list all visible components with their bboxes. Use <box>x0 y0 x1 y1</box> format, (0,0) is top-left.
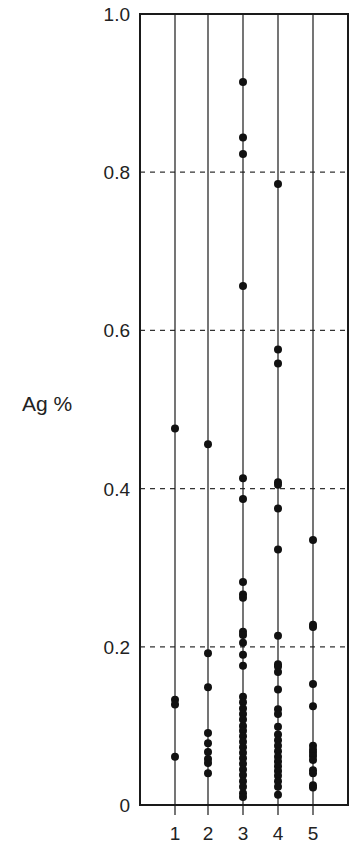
data-point <box>204 769 212 777</box>
data-point <box>204 739 212 747</box>
data-point <box>204 729 212 737</box>
data-point <box>309 680 317 688</box>
y-tick-label: 0 <box>119 795 130 816</box>
scatter-chart: 00.20.40.60.81.0 12345 Ag % <box>0 0 353 858</box>
x-tick-label: 1 <box>170 823 181 844</box>
y-axis-label: Ag % <box>22 392 72 415</box>
y-tick-label: 0.8 <box>104 162 130 183</box>
data-point <box>239 631 247 639</box>
data-point <box>171 701 179 709</box>
y-tick-label: 1.0 <box>104 4 130 25</box>
data-point <box>239 133 247 141</box>
data-point <box>274 481 282 489</box>
data-point <box>274 710 282 718</box>
data-point <box>309 756 317 764</box>
data-point <box>239 651 247 659</box>
data-point <box>239 150 247 158</box>
data-point <box>204 683 212 691</box>
data-points <box>171 78 317 801</box>
x-axis-ticks: 12345 <box>170 823 319 844</box>
data-point <box>239 594 247 602</box>
data-point <box>171 753 179 761</box>
data-point <box>274 686 282 694</box>
data-point <box>239 495 247 503</box>
data-point <box>239 639 247 647</box>
x-tick-label: 4 <box>273 823 284 844</box>
data-point <box>274 791 282 799</box>
data-point <box>204 440 212 448</box>
data-point <box>309 769 317 777</box>
data-point <box>274 546 282 554</box>
data-point <box>309 702 317 710</box>
x-tick-label: 3 <box>238 823 249 844</box>
data-point <box>274 180 282 188</box>
data-point <box>204 759 212 767</box>
data-point <box>239 78 247 86</box>
data-point <box>274 504 282 512</box>
data-point <box>239 662 247 670</box>
data-point <box>274 783 282 791</box>
data-point <box>239 282 247 290</box>
y-axis-ticks: 00.20.40.60.81.0 <box>104 4 131 816</box>
data-point <box>204 649 212 657</box>
data-point <box>309 784 317 792</box>
data-point <box>274 723 282 731</box>
data-point <box>274 632 282 640</box>
data-point <box>171 424 179 432</box>
x-tick-label: 2 <box>203 823 214 844</box>
data-point <box>309 536 317 544</box>
plot-frame <box>140 14 348 805</box>
data-point <box>274 345 282 353</box>
data-point <box>239 578 247 586</box>
data-point <box>274 668 282 676</box>
data-point <box>274 360 282 368</box>
y-tick-label: 0.2 <box>104 637 130 658</box>
y-tick-label: 0.4 <box>104 479 131 500</box>
data-point <box>204 748 212 756</box>
data-point <box>239 474 247 482</box>
y-tick-label: 0.6 <box>104 320 130 341</box>
data-point <box>239 793 247 801</box>
gridlines <box>140 172 348 647</box>
x-tick-label: 5 <box>308 823 319 844</box>
data-point <box>309 623 317 631</box>
